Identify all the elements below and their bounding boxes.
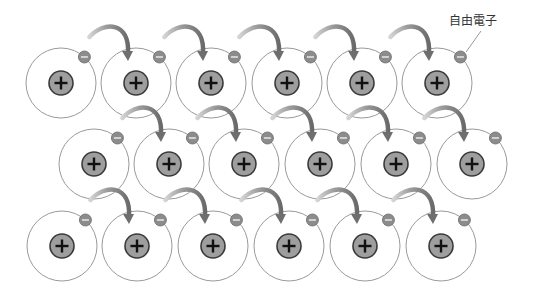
electron-icon — [458, 214, 470, 226]
nucleus-icon — [429, 234, 453, 258]
electron-transfer-arrow-icon — [393, 190, 438, 224]
leader-line — [466, 31, 481, 52]
electron-icon — [78, 51, 90, 63]
electron-icon — [304, 51, 316, 63]
nucleus-icon — [50, 234, 74, 258]
nucleus-icon — [308, 152, 332, 176]
electron-transfer-arrow-icon — [197, 108, 241, 142]
nucleus-icon — [199, 71, 223, 95]
nucleus-icon — [384, 152, 408, 176]
electron-transfer-arrow-icon — [241, 190, 286, 224]
electron-icon — [79, 214, 91, 226]
electron-transfer-arrow-icon — [315, 27, 359, 61]
electron-icon — [489, 132, 501, 144]
electron-icon — [228, 51, 240, 63]
nucleus-icon — [275, 71, 299, 95]
electron-icon — [230, 214, 242, 226]
electron-icon — [153, 51, 165, 63]
free-electron-callout: 自由電子 — [449, 14, 497, 52]
electron-transfer-arrow-icon — [122, 108, 166, 142]
electron-transfer-arrow-icon — [317, 190, 362, 224]
electron-icon — [454, 51, 466, 63]
nucleus-icon — [350, 71, 374, 95]
nucleus-icon — [82, 152, 106, 176]
free-electron-label: 自由電子 — [449, 14, 497, 28]
electron-transfer-arrow-icon — [164, 27, 208, 61]
electron-icon — [154, 214, 166, 226]
electron-transfer-arrow-icon — [239, 27, 284, 61]
electron-icon — [261, 132, 273, 144]
electron-icon — [379, 51, 391, 63]
electron-transfer-arrow-icon — [390, 27, 434, 61]
nucleus-icon — [425, 71, 449, 95]
nucleus-icon — [460, 152, 484, 176]
electron-icon — [306, 214, 318, 226]
nucleus-icon — [124, 71, 148, 95]
electron-icon — [337, 132, 349, 144]
electron-icon — [186, 132, 198, 144]
nucleus-icon — [277, 234, 301, 258]
nucleus-icon — [49, 71, 73, 95]
nucleus-icon — [125, 234, 149, 258]
electron-transfer-arrow-icon — [165, 190, 210, 224]
atoms-layer — [26, 48, 507, 281]
free-electron-diagram: 自由電子 — [0, 0, 533, 302]
electron-icon — [382, 214, 394, 226]
nucleus-icon — [232, 152, 256, 176]
nucleus-icon — [157, 152, 181, 176]
electron-icon — [413, 132, 425, 144]
arrows-layer — [89, 27, 469, 224]
electron-transfer-arrow-icon — [348, 108, 393, 142]
nucleus-icon — [201, 234, 225, 258]
electron-transfer-arrow-icon — [90, 190, 134, 224]
electron-transfer-arrow-icon — [272, 108, 317, 142]
electron-icon — [111, 132, 123, 144]
nucleus-icon — [353, 234, 377, 258]
electron-transfer-arrow-icon — [89, 27, 133, 61]
electron-transfer-arrow-icon — [424, 108, 469, 142]
